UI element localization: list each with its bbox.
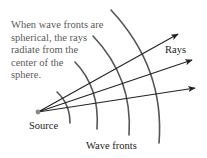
caption-line: When wave fronts are xyxy=(11,19,111,32)
ray-3 xyxy=(38,88,195,112)
source-point xyxy=(36,110,41,115)
caption-line: center of the xyxy=(11,57,111,70)
wave-fronts-label: Wave fronts xyxy=(86,140,137,151)
caption-line: spherical, the rays xyxy=(11,32,111,45)
caption-text: When wave fronts are spherical, the rays… xyxy=(11,19,111,82)
source-label: Source xyxy=(29,120,58,131)
spherical-wavefront-diagram: When wave fronts are spherical, the rays… xyxy=(0,0,207,158)
wave-front-arc-4 xyxy=(111,10,160,143)
caption-line: radiate from the xyxy=(11,44,111,57)
caption-line: sphere. xyxy=(11,69,111,82)
rays-label: Rays xyxy=(165,44,186,55)
